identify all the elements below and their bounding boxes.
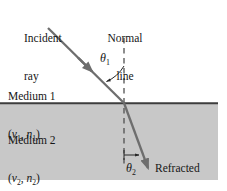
theta-1-label: θ1 <box>100 51 110 67</box>
theta-2-label: θ2 <box>126 161 136 177</box>
medium-2-label: Medium 2 (v2, n2) <box>8 108 56 191</box>
normal-line-label-line1: Normal <box>97 32 153 45</box>
incident-ray-label-line1: Incident <box>24 32 62 45</box>
medium-2-parameters: (v2, n2) <box>8 172 56 188</box>
refracted-ray-label-line1: Refracted <box>155 162 200 175</box>
medium-2-paren-close: ) <box>36 172 40 184</box>
refraction-diagram: Incident ray Normal line Refracted ray M… <box>0 0 227 191</box>
normal-line-label-line2: line <box>97 70 153 83</box>
theta-1-subscript: 1 <box>106 58 110 67</box>
theta-2-subscript: 2 <box>132 168 136 177</box>
medium-1-name: Medium 1 <box>8 90 56 103</box>
medium-2-name: Medium 2 <box>8 134 56 147</box>
refracted-ray-label: Refracted ray <box>155 136 200 191</box>
